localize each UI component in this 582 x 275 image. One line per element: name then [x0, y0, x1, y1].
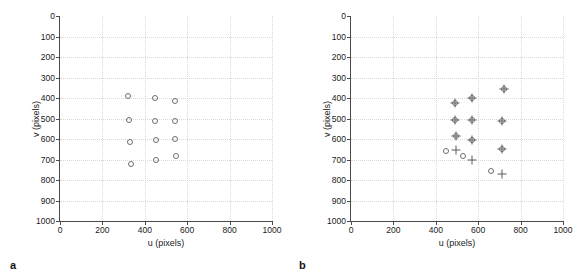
y-axis-tick-label: 1000: [327, 217, 346, 226]
x-axis-tick-label: 400: [138, 226, 152, 235]
plot-area-a: v (pixels) u (pixels) 020040060080010000…: [59, 16, 272, 222]
y-axis-tick-label: 900: [332, 196, 346, 205]
x-axis-tick-label: 800: [514, 226, 528, 235]
y-axis-tick-label: 700: [41, 155, 55, 164]
data-point-plus: [451, 99, 460, 108]
data-point-circle: [125, 93, 131, 99]
y-axis-tick-label: 500: [332, 114, 346, 123]
y-axis-tick: [56, 201, 60, 202]
y-axis-tick-label: 700: [332, 155, 346, 164]
gridline-horizontal: [60, 139, 272, 140]
y-axis-tick: [347, 201, 351, 202]
y-axis-tick-label: 400: [332, 94, 346, 103]
data-point-plus: [468, 136, 477, 145]
y-axis-tick: [347, 160, 351, 161]
y-axis-tick: [347, 16, 351, 17]
gridline-horizontal: [60, 37, 272, 38]
y-axis-tick: [347, 180, 351, 181]
y-axis-tick: [56, 37, 60, 38]
data-point-circle: [173, 153, 179, 159]
panel-letter-a: a: [10, 259, 16, 271]
gridline-horizontal: [351, 57, 563, 58]
gridline-horizontal: [351, 201, 563, 202]
gridline-vertical: [563, 16, 564, 221]
x-axis-tick-label: 600: [180, 226, 194, 235]
data-point-plus: [468, 94, 477, 103]
data-point-circle: [153, 157, 159, 163]
y-axis-tick: [56, 139, 60, 140]
y-axis-title-b: v (pixels): [322, 100, 332, 136]
data-point-plus: [497, 144, 506, 153]
y-axis-tick-label: 600: [332, 135, 346, 144]
y-axis-tick-label: 1000: [36, 217, 55, 226]
data-point-plus: [451, 115, 460, 124]
y-axis-tick: [56, 160, 60, 161]
y-axis-tick-label: 200: [332, 53, 346, 62]
y-axis-title-a: v (pixels): [31, 100, 41, 136]
y-axis-tick: [56, 57, 60, 58]
data-point-circle: [126, 117, 132, 123]
gridline-horizontal: [60, 160, 272, 161]
gridline-vertical: [272, 16, 273, 221]
y-axis-tick-label: 0: [50, 12, 55, 21]
gridline-horizontal: [60, 78, 272, 79]
data-point-circle: [460, 153, 466, 159]
y-axis-tick-label: 300: [41, 73, 55, 82]
y-axis-tick: [56, 180, 60, 181]
y-axis-tick-label: 0: [341, 12, 346, 21]
y-axis-tick-label: 600: [41, 135, 55, 144]
x-axis-title-a: u (pixels): [148, 238, 185, 248]
data-point-circle: [128, 161, 134, 167]
y-axis-tick: [56, 16, 60, 17]
y-axis-tick-label: 200: [41, 53, 55, 62]
x-axis-tick-label: 800: [223, 226, 237, 235]
data-point-circle: [127, 139, 133, 145]
figure-root: v (pixels) u (pixels) 020040060080010000…: [0, 0, 582, 275]
x-axis-tick-label: 1000: [263, 226, 282, 235]
x-axis-tick-label: 200: [386, 226, 400, 235]
y-axis-tick: [347, 98, 351, 99]
gridline-horizontal: [60, 57, 272, 58]
y-axis-tick-label: 800: [332, 176, 346, 185]
y-axis-tick-label: 300: [332, 73, 346, 82]
data-point-plus: [467, 155, 476, 164]
x-axis-tick-label: 0: [349, 226, 354, 235]
y-axis-tick: [347, 57, 351, 58]
y-axis-tick: [347, 119, 351, 120]
data-point-circle: [152, 118, 158, 124]
gridline-horizontal: [351, 180, 563, 181]
gridline-horizontal: [60, 180, 272, 181]
y-axis-tick: [347, 78, 351, 79]
data-point-circle: [152, 95, 158, 101]
plot-area-b: v (pixels) u (pixels) 020040060080010000…: [350, 16, 563, 222]
y-axis-tick-label: 900: [41, 196, 55, 205]
data-point-plus: [497, 169, 506, 178]
data-point-plus: [497, 116, 506, 125]
data-point-circle: [172, 118, 178, 124]
data-point-plus: [468, 116, 477, 125]
gridline-horizontal: [60, 119, 272, 120]
data-point-plus: [452, 146, 461, 155]
data-point-circle: [153, 137, 159, 143]
panel-a: v (pixels) u (pixels) 020040060080010000…: [0, 0, 291, 275]
x-axis-tick-label: 0: [58, 226, 63, 235]
gridline-horizontal: [351, 37, 563, 38]
y-axis-tick-label: 800: [41, 176, 55, 185]
panel-b: v (pixels) u (pixels) 020040060080010000…: [291, 0, 582, 275]
data-point-circle: [443, 148, 449, 154]
gridline-horizontal: [351, 160, 563, 161]
data-point-circle: [172, 136, 178, 142]
data-point-circle: [488, 168, 494, 174]
x-axis-tick-label: 1000: [554, 226, 573, 235]
x-axis-title-b: u (pixels): [439, 238, 476, 248]
data-point-plus: [452, 131, 461, 140]
y-axis-tick: [347, 221, 351, 222]
y-axis-tick: [347, 37, 351, 38]
y-axis-tick: [56, 221, 60, 222]
y-axis-tick: [56, 78, 60, 79]
gridline-horizontal: [351, 78, 563, 79]
gridline-horizontal: [60, 201, 272, 202]
y-axis-tick-label: 400: [41, 94, 55, 103]
y-axis-tick: [56, 119, 60, 120]
y-axis-tick-label: 100: [41, 32, 55, 41]
